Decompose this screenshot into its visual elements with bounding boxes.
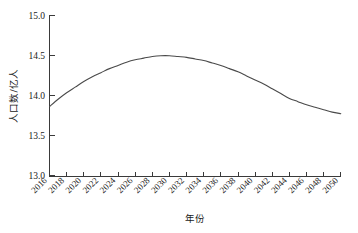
x-axis-title: 年份	[185, 213, 205, 224]
chart-page: 15.0 14.5 14.0 13.5 13.0	[0, 0, 358, 233]
y-tick-label-13-5: 13.5	[28, 131, 45, 141]
y-tick-label-15-0: 15.0	[28, 11, 45, 21]
chart-background	[0, 0, 358, 233]
y-tick-label-14-5: 14.5	[28, 51, 45, 61]
y-axis-title: 人口数/亿人	[8, 69, 19, 122]
population-line-chart: 15.0 14.5 14.0 13.5 13.0	[0, 0, 358, 233]
y-tick-label-14-0: 14.0	[28, 91, 45, 101]
